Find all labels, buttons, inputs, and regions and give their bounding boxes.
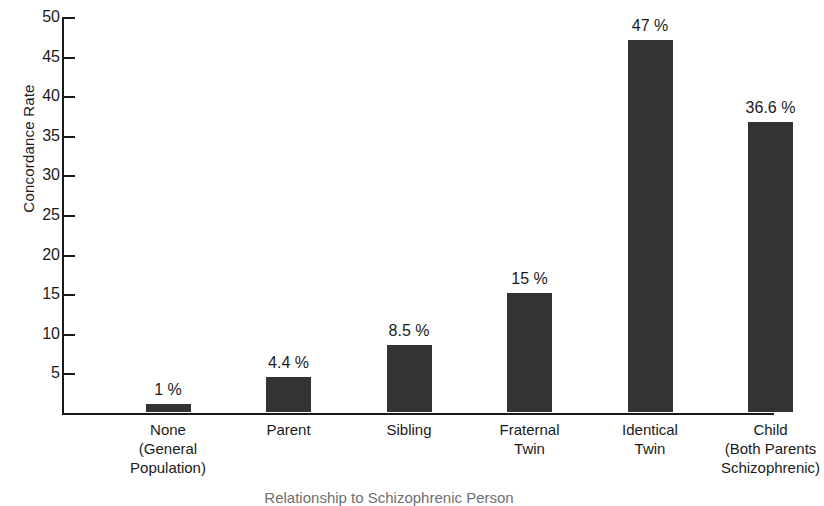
x-category-line: (Both Parents xyxy=(701,439,824,458)
x-category-label: Sibling xyxy=(339,420,479,439)
y-tick-label: 5 xyxy=(20,365,60,381)
x-category-line: None xyxy=(98,420,238,439)
y-tick-label: 30 xyxy=(20,167,60,183)
bar xyxy=(507,293,552,412)
x-category-label: Parent xyxy=(219,420,359,439)
y-tick xyxy=(64,57,75,59)
y-tick xyxy=(64,136,75,138)
x-category-label: FraternalTwin xyxy=(460,420,600,458)
bar-value-label: 4.4 % xyxy=(229,354,349,372)
y-tick-label: 20 xyxy=(20,247,60,263)
y-tick-label: 10 xyxy=(20,326,60,342)
x-category-line: (General xyxy=(98,439,238,458)
x-category-line: Schizophrenic) xyxy=(701,458,824,477)
bar xyxy=(628,40,673,412)
bar-value-label: 1 % xyxy=(108,381,228,399)
y-tick xyxy=(64,17,75,19)
x-category-line: Twin xyxy=(460,439,600,458)
y-tick xyxy=(64,373,75,375)
y-tick-label: 40 xyxy=(20,88,60,104)
x-category-line: Twin xyxy=(580,439,720,458)
y-tick-label: 25 xyxy=(20,207,60,223)
bar xyxy=(748,122,793,412)
y-tick xyxy=(64,175,75,177)
x-category-label: Child(Both ParentsSchizophrenic) xyxy=(701,420,824,477)
bar xyxy=(387,345,432,412)
x-category-line: Population) xyxy=(98,458,238,477)
x-category-line: Parent xyxy=(219,420,359,439)
y-tick xyxy=(64,96,75,98)
bar xyxy=(146,404,191,412)
x-category-line: Sibling xyxy=(339,420,479,439)
x-axis-line xyxy=(62,413,774,415)
x-category-line: Fraternal xyxy=(460,420,600,439)
x-category-line: Identical xyxy=(580,420,720,439)
x-category-label: None(GeneralPopulation) xyxy=(98,420,238,477)
y-tick xyxy=(64,334,75,336)
y-tick xyxy=(64,255,75,257)
bar-value-label: 36.6 % xyxy=(711,99,824,117)
bar-value-label: 15 % xyxy=(470,270,590,288)
x-axis-title: Relationship to Schizophrenic Person xyxy=(0,489,778,506)
y-tick xyxy=(64,294,75,296)
bar xyxy=(266,377,311,412)
plot-area: 5101520253035404550 1 %4.4 %8.5 %15 %47 … xyxy=(62,17,774,414)
bar-value-label: 47 % xyxy=(590,17,710,35)
y-tick xyxy=(64,215,75,217)
x-category-label: IdenticalTwin xyxy=(580,420,720,458)
y-tick-label: 50 xyxy=(20,9,60,25)
y-tick-label: 15 xyxy=(20,286,60,302)
x-category-line: Child xyxy=(701,420,824,439)
bar-value-label: 8.5 % xyxy=(349,322,469,340)
y-tick-label: 35 xyxy=(20,128,60,144)
y-tick-label: 45 xyxy=(20,49,60,65)
